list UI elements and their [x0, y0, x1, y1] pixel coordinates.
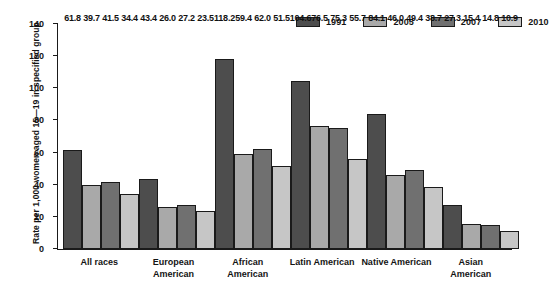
bar-slot: 27.3: [443, 24, 462, 249]
bar[interactable]: 26.0: [158, 207, 177, 249]
bar[interactable]: 38.7: [424, 187, 443, 249]
bar-value-label: 75.3: [330, 13, 347, 23]
bar[interactable]: 104.6: [291, 81, 310, 249]
bar-slot: 55.7: [348, 24, 367, 249]
bar-slot: 75.3: [329, 24, 348, 249]
bar-slot: 26.0: [158, 24, 177, 249]
bar-group: 43.426.027.223.5: [139, 24, 215, 249]
bar-value-label: 15.4: [463, 13, 480, 23]
y-axis-tick-label: 0: [39, 244, 44, 254]
y-axis-tick-label: 120: [29, 51, 44, 61]
bar-slot: 27.2: [177, 24, 196, 249]
bar-slot: 14.8: [481, 24, 500, 249]
bar[interactable]: 41.5: [101, 182, 120, 249]
bar-value-label: 34.4: [121, 13, 138, 23]
bar-slot: 46.0: [386, 24, 405, 249]
bar-slot: 34.4: [120, 24, 139, 249]
bar[interactable]: 62.0: [253, 149, 272, 249]
y-axis-tick-label: 60: [34, 148, 44, 158]
bar-slot: 23.5: [196, 24, 215, 249]
bar-value-label: 118.2: [214, 13, 235, 23]
bar-group: 27.315.414.810.9: [443, 24, 519, 249]
bar-value-label: 104.6: [290, 13, 312, 23]
bar[interactable]: 49.4: [405, 170, 424, 249]
bar-value-label: 14.8: [482, 13, 499, 23]
bar-slot: 61.8: [63, 24, 82, 249]
bar[interactable]: 76.5: [310, 126, 329, 249]
bar[interactable]: 46.0: [386, 175, 405, 249]
bar-group: 104.676.575.355.7: [291, 24, 367, 249]
bar-value-label: 41.5: [102, 13, 119, 23]
bar[interactable]: 55.7: [348, 159, 367, 249]
bar-slot: 51.5: [272, 24, 291, 249]
bar[interactable]: 14.8: [481, 225, 500, 249]
bar-slot: 59.4: [234, 24, 253, 249]
bar[interactable]: 75.3: [329, 128, 348, 249]
bar-slot: 84.1: [367, 24, 386, 249]
x-axis-category-label: Latin American: [285, 256, 359, 296]
y-axis-tick-label: 100: [29, 83, 44, 93]
bar-value-label: 59.4: [235, 13, 252, 23]
bar-value-label: 27.2: [178, 13, 195, 23]
bar[interactable]: 10.9: [500, 231, 519, 249]
bar[interactable]: 27.3: [443, 205, 462, 249]
x-axis-category-label: European American: [136, 256, 210, 296]
bar-slot: 118.2: [215, 24, 234, 249]
y-axis-tick-label: 140: [29, 19, 44, 29]
bar[interactable]: 61.8: [63, 150, 82, 249]
bar[interactable]: 23.5: [196, 211, 215, 249]
bar[interactable]: 34.4: [120, 194, 139, 249]
bar-value-label: 46.0: [387, 13, 404, 23]
bar[interactable]: 27.2: [177, 205, 196, 249]
bar-group: 61.839.741.534.4: [63, 24, 139, 249]
x-axis-category-label: African American: [211, 256, 285, 296]
bar-value-label: 55.7: [349, 13, 366, 23]
bar-value-label: 43.4: [140, 13, 157, 23]
bar[interactable]: 59.4: [234, 154, 253, 249]
bar-slot: 76.5: [310, 24, 329, 249]
bar[interactable]: 43.4: [139, 179, 158, 249]
bar[interactable]: 39.7: [82, 185, 101, 249]
bar-slot: 10.9: [500, 24, 519, 249]
x-axis-category-label: Native American: [359, 256, 433, 296]
bar-slot: 41.5: [101, 24, 120, 249]
bar-groups: 61.839.741.534.443.426.027.223.5118.259.…: [58, 24, 512, 249]
bar-value-label: 39.7: [83, 13, 100, 23]
y-axis-tick-label: 40: [34, 180, 44, 190]
bar[interactable]: 118.2: [215, 59, 234, 249]
bar-value-label: 27.3: [444, 13, 461, 23]
bar-value-label: 76.5: [311, 13, 328, 23]
bar[interactable]: 51.5: [272, 166, 291, 249]
bar-value-label: 62.0: [254, 13, 271, 23]
legend-label: 2010: [528, 17, 548, 27]
bar-group: 118.259.462.051.5: [215, 24, 291, 249]
bar-value-label: 84.1: [368, 13, 385, 23]
bar-group: 84.146.049.438.7: [367, 24, 443, 249]
bar-value-label: 26.0: [159, 13, 176, 23]
bar-value-label: 38.7: [425, 13, 442, 23]
y-axis-tick-label: 80: [34, 115, 44, 125]
x-axis-category-label: All races: [62, 256, 136, 296]
bar-slot: 62.0: [253, 24, 272, 249]
bar-value-label: 51.5: [273, 13, 290, 23]
bar-slot: 104.6: [291, 24, 310, 249]
bar-value-label: 61.8: [64, 13, 81, 23]
bar-value-label: 23.5: [197, 13, 214, 23]
bar-value-label: 10.9: [501, 13, 518, 23]
bar-slot: 39.7: [82, 24, 101, 249]
bar-slot: 49.4: [405, 24, 424, 249]
bar[interactable]: 84.1: [367, 114, 386, 249]
bar-slot: 15.4: [462, 24, 481, 249]
bar-value-label: 49.4: [406, 13, 423, 23]
bar-slot: 43.4: [139, 24, 158, 249]
bar[interactable]: 15.4: [462, 224, 481, 249]
bar-slot: 38.7: [424, 24, 443, 249]
plot-area: 020406080100120140 61.839.741.534.443.42…: [57, 24, 512, 250]
x-axis-category-label: Asian American: [434, 256, 508, 296]
y-axis-tick-label: 20: [34, 212, 44, 222]
x-axis-category-labels: All racesEuropean AmericanAfrican Americ…: [57, 256, 512, 296]
